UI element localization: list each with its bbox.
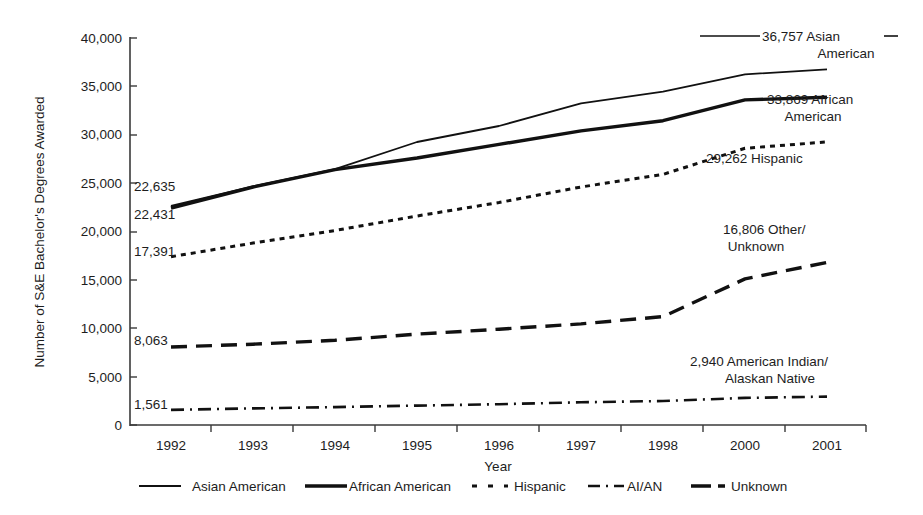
legend-label-asian-american: Asian American — [192, 479, 286, 494]
y-tick-marks — [130, 38, 137, 425]
x-tick-label-1996: 1996 — [484, 438, 514, 453]
series-line-aian — [171, 397, 827, 410]
legend-item-hispanic[interactable]: Hispanic — [472, 479, 566, 494]
x-tick-label-1994: 1994 — [320, 438, 351, 453]
chart-figure: Number of S&E Bachelor's Degrees Awarded… — [0, 0, 923, 515]
y-tick-label-10000: 10,000 — [81, 321, 122, 336]
legend-item-african-american[interactable]: African American — [305, 479, 451, 494]
x-tick-label-1998: 1998 — [648, 438, 678, 453]
y-tick-label-15000: 15,000 — [81, 273, 122, 288]
start-label-asian-american: 22,635 — [134, 179, 175, 194]
end-label-asian-american-line2: American — [817, 46, 874, 61]
legend-label-african-american: African American — [349, 479, 451, 494]
end-label-african-american-line2: American — [784, 109, 841, 124]
y-axis-title: Number of S&E Bachelor's Degrees Awarded — [32, 97, 47, 368]
legend-item-aian[interactable]: AI/AN — [588, 479, 662, 494]
x-axis-title: Year — [484, 459, 512, 474]
legend-label-unknown: Unknown — [731, 479, 787, 494]
series-line-unknown — [171, 262, 827, 347]
start-label-hispanic: 17,391 — [134, 244, 175, 259]
y-tick-label-0: 0 — [114, 418, 122, 433]
legend-label-aian: AI/AN — [627, 479, 662, 494]
end-label-hispanic: 29,262 Hispanic — [706, 151, 803, 166]
x-tick-label-2000: 2000 — [730, 438, 760, 453]
y-tick-label-30000: 30,000 — [81, 127, 122, 142]
end-label-african-american-line1: 33,869 African — [767, 92, 853, 107]
y-tick-label-5000: 5,000 — [88, 370, 122, 385]
y-tick-label-20000: 20,000 — [81, 224, 122, 239]
x-tick-marks — [211, 425, 866, 432]
y-tick-label-40000: 40,000 — [81, 31, 122, 46]
x-tick-label-1995: 1995 — [402, 438, 432, 453]
start-label-african-american: 22,431 — [134, 207, 175, 222]
y-tick-label-25000: 25,000 — [81, 176, 122, 191]
legend-item-asian-american[interactable]: Asian American — [139, 479, 286, 494]
start-label-aian: 1,561 — [134, 397, 168, 412]
end-label-asian-american-line1: 36,757 Asian — [762, 29, 840, 44]
line-chart: Number of S&E Bachelor's Degrees Awarded… — [0, 0, 923, 515]
end-label-aian-line2: Alaskan Native — [725, 371, 815, 386]
end-label-unknown-line2: Unknown — [728, 239, 784, 254]
end-label-aian-line1: 2,940 American Indian/ — [690, 354, 828, 369]
end-label-unknown-line1: 16,806 Other/ — [723, 222, 806, 237]
x-tick-label-2001: 2001 — [812, 438, 842, 453]
chart-legend: Asian American African American Hispanic… — [139, 479, 787, 494]
start-label-unknown: 8,063 — [134, 333, 168, 348]
legend-item-unknown[interactable]: Unknown — [691, 479, 787, 494]
x-tick-label-1993: 1993 — [238, 438, 268, 453]
x-tick-label-1997: 1997 — [566, 438, 596, 453]
series-line-asian-american — [171, 69, 827, 206]
x-tick-label-1992: 1992 — [156, 438, 186, 453]
y-tick-label-35000: 35,000 — [81, 79, 122, 94]
legend-label-hispanic: Hispanic — [514, 479, 566, 494]
